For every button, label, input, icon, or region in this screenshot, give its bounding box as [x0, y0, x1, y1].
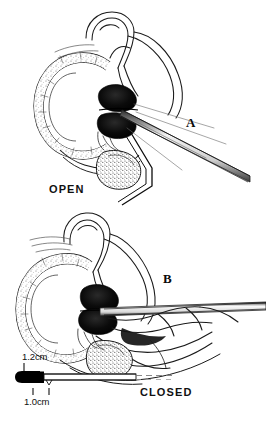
upper-left-wisps-b: [30, 237, 72, 252]
panel-letter-b: B: [163, 272, 172, 285]
scale-notch-marker: [46, 380, 52, 385]
scale-tip-extension: [38, 372, 44, 384]
scale-rod-shaft: [44, 374, 136, 380]
panel-a-illustration: [0, 0, 266, 210]
anatomical-figure: A OPEN: [0, 0, 266, 421]
scale-bar: 1.2cm 1.0cm: [0, 352, 180, 414]
scale-tip-bulb: [15, 371, 40, 383]
circular-wall-b: [16, 254, 92, 363]
state-label-open: OPEN: [49, 184, 85, 195]
sphincter-mass: [97, 85, 138, 139]
scale-bar-graphic: [0, 352, 180, 414]
panel-a-open: A OPEN: [0, 0, 266, 210]
instrument-shaft-b[interactable]: [100, 302, 266, 316]
panel-letter-a: A: [186, 116, 195, 129]
